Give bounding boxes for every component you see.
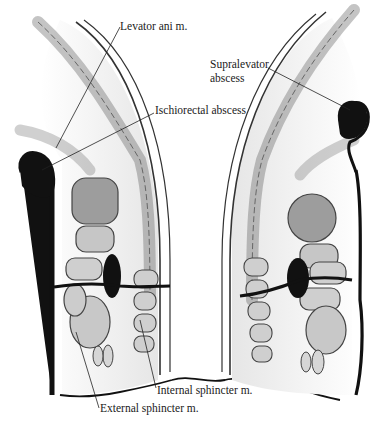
anorectal-diagram xyxy=(0,0,392,433)
label-supralevator-line1: Supralevator xyxy=(210,58,269,71)
label-ischiorectal-abscess: Ischiorectal abscess xyxy=(155,104,246,117)
label-levator-ani: Levator ani m. xyxy=(120,20,187,33)
label-supralevator-line2: abscess xyxy=(210,72,245,85)
ischiorectal-abscess-shape xyxy=(20,154,53,395)
label-internal-sphincter: Internal sphincter m. xyxy=(157,384,252,397)
label-external-sphincter: External sphincter m. xyxy=(100,402,199,415)
